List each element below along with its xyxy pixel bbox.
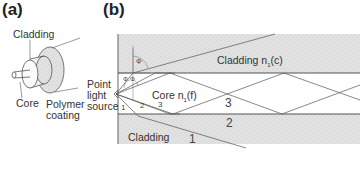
cladding-label-a: Cladding bbox=[13, 29, 54, 40]
bottom-cladding-label: Cladding bbox=[128, 132, 169, 143]
angle-theta-2-label: Φ bbox=[130, 76, 135, 82]
polymer-coating-label-line2: coating bbox=[46, 110, 80, 121]
top-cladding-label: Cladding n1(c) bbox=[217, 55, 283, 71]
ray-3-small-label: 3 bbox=[158, 100, 162, 109]
ray-2-small-label: 2 bbox=[140, 101, 144, 110]
ray-1-large-label: 1 bbox=[189, 132, 196, 146]
angle-theta-1-label: Φ bbox=[123, 76, 128, 82]
ray-3-large-label: 3 bbox=[225, 96, 232, 110]
fiber-cross-section-illustration bbox=[0, 0, 360, 174]
source-label-line3: source bbox=[87, 101, 119, 112]
core-cylinder-shape bbox=[12, 60, 38, 88]
angle-phi-label: Φ bbox=[136, 58, 142, 65]
panel-b-label: (b) bbox=[103, 0, 125, 20]
ray-2-large-label: 2 bbox=[226, 116, 233, 130]
ray-1-small-label: 1 bbox=[121, 103, 125, 112]
core-label-a: Core bbox=[16, 98, 39, 109]
